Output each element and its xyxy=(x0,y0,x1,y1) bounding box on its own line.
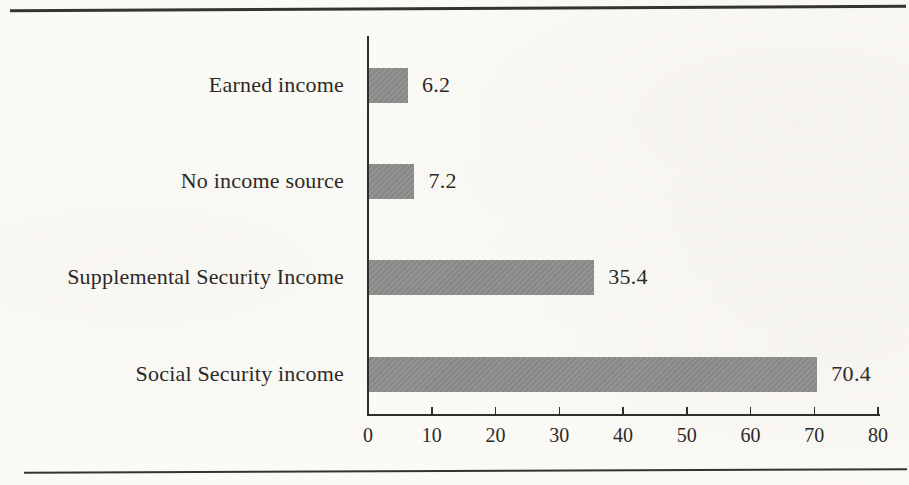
x-axis-tick-label: 40 xyxy=(598,424,648,446)
category-label: Supplemental Security Income xyxy=(0,262,344,292)
x-axis-tick-label: 30 xyxy=(534,424,584,446)
x-axis-tick-label: 50 xyxy=(662,424,712,446)
x-axis-tick xyxy=(814,407,816,415)
top-rule xyxy=(10,5,906,12)
bar xyxy=(369,164,415,199)
x-axis-tick xyxy=(686,407,688,415)
x-axis-tick xyxy=(877,407,879,415)
bar xyxy=(369,68,409,103)
bar xyxy=(369,260,595,295)
x-axis-tick-label: 10 xyxy=(407,424,457,446)
value-label: 70.4 xyxy=(831,359,871,389)
bar xyxy=(369,357,818,392)
scanned-book-figure: Earned income6.2No income source7.2Suppl… xyxy=(0,0,909,485)
x-axis-tick-label: 0 xyxy=(343,424,393,446)
category-label: Earned income xyxy=(0,70,344,100)
value-label: 35.4 xyxy=(608,262,648,292)
x-axis-tick-label: 70 xyxy=(789,424,839,446)
value-label: 6.2 xyxy=(422,70,450,100)
x-axis-tick-label: 80 xyxy=(853,424,903,446)
x-axis-tick xyxy=(750,407,752,415)
x-axis-tick xyxy=(431,407,433,415)
x-axis-tick xyxy=(559,407,561,415)
x-axis-tick-label: 20 xyxy=(471,424,521,446)
value-label: 7.2 xyxy=(428,166,456,196)
category-label: No income source xyxy=(0,166,344,196)
x-axis-tick xyxy=(367,407,369,415)
category-label: Social Security income xyxy=(0,359,344,389)
bottom-rule xyxy=(24,468,907,473)
x-axis-tick xyxy=(495,407,497,415)
x-axis-tick xyxy=(622,407,624,415)
x-axis-tick-label: 60 xyxy=(726,424,776,446)
